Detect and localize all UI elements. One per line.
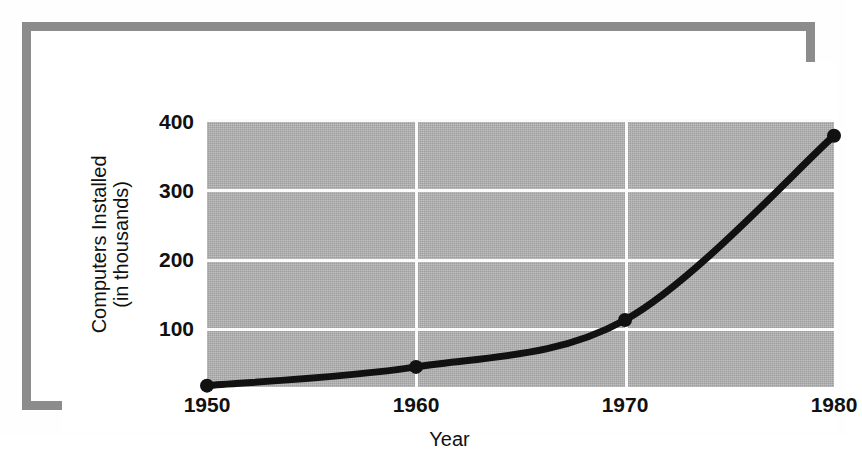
gridline-x-1970 xyxy=(625,119,628,387)
y-tick-300: 300 xyxy=(134,179,194,203)
y-tick-400: 400 xyxy=(134,110,194,134)
y-axis-label: Computers Installed (in thousands) xyxy=(88,104,133,384)
x-axis-label: Year xyxy=(62,428,837,450)
y-tick-100: 100 xyxy=(134,317,194,341)
x-tick-1970: 1970 xyxy=(570,393,680,417)
x-tick-1950: 1950 xyxy=(152,393,262,417)
gridline-x-1960 xyxy=(415,119,418,387)
y-tick-200: 200 xyxy=(134,248,194,272)
y-axis-ticks: 400 300 200 100 xyxy=(132,62,194,432)
figure-outer-frame: 400 300 200 100 1950 1960 1970 1980 Year… xyxy=(22,22,815,410)
gridline-y-400 xyxy=(207,119,834,122)
gridline-y-100 xyxy=(207,328,834,331)
x-tick-1960: 1960 xyxy=(361,393,471,417)
chart-canvas: 400 300 200 100 1950 1960 1970 1980 Year… xyxy=(62,62,837,432)
plot-area xyxy=(207,119,834,387)
y-axis-label-line1: Computers Installed xyxy=(88,155,110,333)
y-axis-label-line2: (in thousands) xyxy=(110,104,132,384)
gridline-y-200 xyxy=(207,259,834,262)
x-axis-ticks: 1950 1960 1970 1980 xyxy=(62,393,837,423)
x-tick-1980: 1980 xyxy=(779,393,862,417)
gridline-y-300 xyxy=(207,189,834,192)
